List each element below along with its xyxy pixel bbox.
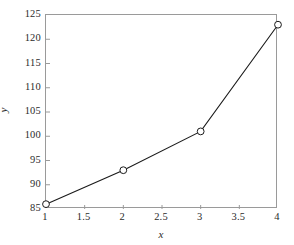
plot-canvas [46, 15, 278, 209]
y-tick-label: 85 [30, 203, 41, 214]
data-point-marker [120, 167, 127, 174]
y-axis-title: y [0, 108, 9, 113]
y-tick-label: 105 [25, 106, 41, 117]
data-point-marker [197, 128, 204, 135]
data-point-marker [43, 201, 50, 208]
y-tick-label: 125 [25, 9, 41, 20]
y-tick-label: 110 [25, 82, 41, 93]
x-tick-label: 2 [120, 212, 125, 223]
chart-figure: 859095100105110115120125 y 11.522.533.54… [0, 0, 294, 245]
data-point-markers [43, 21, 282, 207]
x-axis-title: x [45, 228, 277, 240]
x-tick-label: 3 [197, 212, 202, 223]
x-tick-label: 1 [42, 212, 47, 223]
x-tick-label: 3.5 [231, 212, 245, 223]
data-series-line [46, 25, 278, 204]
y-tick-label: 115 [25, 58, 41, 69]
plot-area [45, 14, 277, 208]
axis-ticks [46, 39, 239, 209]
y-tick-label: 120 [25, 33, 41, 44]
x-axis-tick-labels: 11.522.533.54 [45, 212, 277, 226]
x-tick-label: 1.5 [77, 212, 91, 223]
y-tick-label: 100 [25, 130, 41, 141]
y-tick-label: 90 [30, 179, 41, 190]
x-tick-label: 2.5 [154, 212, 168, 223]
y-tick-label: 95 [30, 155, 41, 166]
data-point-marker [275, 21, 282, 28]
x-tick-label: 4 [274, 212, 279, 223]
